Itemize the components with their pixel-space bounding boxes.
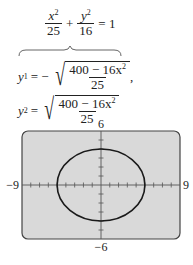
x-min-label: −9 <box>6 178 19 192</box>
x-max-label: 9 <box>183 178 189 192</box>
y-min-label: −6 <box>95 240 108 254</box>
y-max-label: 6 <box>98 117 104 131</box>
graph: 6−6−99 <box>0 0 193 265</box>
